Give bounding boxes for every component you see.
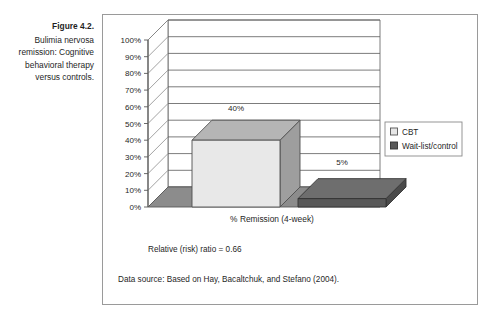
bar-cbt-front	[192, 140, 280, 207]
figure-caption-text: Bulimia nervosa remission: Cognitive beh…	[8, 34, 94, 84]
bar-chart-3d: 100% 90% 80% 70% 60% 50% 40% 30% 20% 10%…	[102, 14, 478, 305]
legend-label-waitlist: Wait-list/control	[402, 142, 458, 151]
y-tick-label: 70%	[125, 86, 141, 95]
relative-risk-note: Relative (risk) ratio = 0.66	[148, 245, 242, 254]
y-tick-label: 40%	[125, 136, 141, 145]
y-tick-label: 100%	[121, 36, 141, 45]
data-source-note: Data source: Based on Hay, Bacaltchuk, a…	[118, 275, 339, 284]
figure-number: Figure 4.2.	[8, 20, 94, 33]
chart-legend[interactable]: CBT Wait-list/control	[385, 122, 462, 156]
y-tick-label: 60%	[125, 103, 141, 112]
y-axis-tick-labels: 100% 90% 80% 70% 60% 50% 40% 30% 20% 10%…	[121, 36, 141, 212]
legend-item-cbt[interactable]: CBT	[391, 128, 419, 137]
y-tick-label: 10%	[125, 186, 141, 195]
legend-swatch-cbt	[391, 128, 398, 135]
y-tick-label: 20%	[125, 170, 141, 179]
y-tick-label: 50%	[125, 120, 141, 129]
x-axis-title: % Remission (4-week)	[230, 214, 314, 224]
figure-caption: Figure 4.2. Bulimia nervosa remission: C…	[8, 20, 94, 84]
y-tick-label: 0%	[129, 203, 141, 212]
bar-waitlist[interactable]	[298, 179, 406, 207]
bar-waitlist-front	[298, 199, 386, 207]
y-tick-label: 80%	[125, 69, 141, 78]
bar-waitlist-value-label: 5%	[336, 158, 348, 167]
figure-container: Figure 4.2. Bulimia nervosa remission: C…	[0, 0, 498, 319]
legend-swatch-waitlist	[391, 142, 398, 149]
bar-cbt-value-label: 40%	[228, 104, 244, 113]
y-tick-label: 30%	[125, 153, 141, 162]
legend-label-cbt: CBT	[402, 128, 418, 137]
legend-box	[385, 122, 462, 156]
bar-cbt[interactable]	[192, 120, 300, 207]
y-axis-ticks	[144, 40, 148, 207]
y-tick-label: 90%	[125, 53, 141, 62]
